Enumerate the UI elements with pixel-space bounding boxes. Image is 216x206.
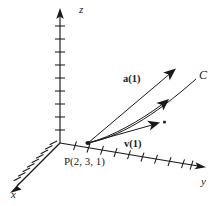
tick-mark [27, 164, 34, 168]
tick-mark [23, 168, 30, 172]
tick-mark [50, 141, 57, 145]
tick-mark [45, 146, 52, 150]
curve-C-label: C [199, 69, 207, 81]
point-P-label: P(2, 3, 1) [64, 156, 105, 167]
tick-mark [18, 173, 25, 177]
tick-mark [41, 150, 48, 154]
z-axis-group [55, 8, 65, 143]
velocity-tip-dot [163, 121, 166, 124]
x-axis-label: x [11, 189, 16, 200]
vector-diagram-figure: z y x a(1) v(1) C P(2, 3, 1) [0, 0, 216, 206]
x-axis-ticks [14, 141, 57, 181]
tick-mark [14, 177, 21, 181]
y-axis-label: y [201, 176, 206, 187]
tick-mark [32, 159, 39, 163]
velocity-vector-label: v(1) [124, 139, 142, 150]
diagram-canvas [0, 0, 216, 206]
x-axis-group [10, 141, 60, 193]
acceleration-vector-label: a(1) [123, 74, 141, 85]
acceleration-arrowhead [163, 69, 176, 81]
tangent-vector-group [88, 99, 169, 143]
velocity-vector-line [88, 125, 152, 143]
x-axis-line [17, 143, 60, 186]
curve-C-path [88, 79, 196, 143]
z-axis-label: z [79, 4, 83, 15]
curve-C-group [88, 79, 196, 143]
tick-mark [36, 155, 43, 159]
point-P-marker [85, 141, 90, 145]
